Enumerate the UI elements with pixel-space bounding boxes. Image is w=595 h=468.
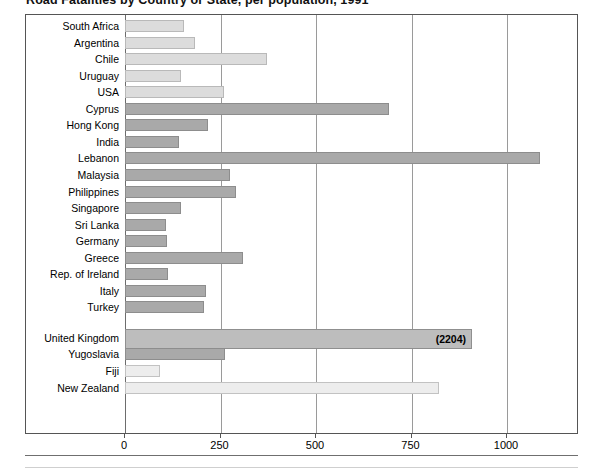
axis-baseline xyxy=(25,455,578,456)
category-label: Malaysia xyxy=(26,168,119,182)
bar-row: South Africa xyxy=(26,18,577,35)
bar xyxy=(125,86,224,98)
tick-mark xyxy=(506,434,507,438)
bar xyxy=(125,202,181,214)
bar xyxy=(125,285,206,297)
category-label: Lebanon xyxy=(26,151,119,165)
plot-area: South AfricaArgentinaChileUruguayUSACypr… xyxy=(25,14,578,434)
bar xyxy=(125,301,204,313)
bar xyxy=(125,348,225,360)
bar xyxy=(125,235,167,247)
bar xyxy=(125,53,267,65)
bar-row: USA xyxy=(26,84,577,101)
category-label: Uruguay xyxy=(26,69,119,83)
category-label: Fiji xyxy=(26,364,119,378)
bar-row: Sri Lanka xyxy=(26,217,577,234)
tick-mark xyxy=(411,434,412,438)
category-label: Hong Kong xyxy=(26,118,119,132)
tick-mark xyxy=(220,434,221,438)
tick-mark xyxy=(315,434,316,438)
bar-value-label: (2204) xyxy=(436,333,466,345)
bar-row: Argentina xyxy=(26,35,577,52)
bar-row: Philippines xyxy=(26,184,577,201)
bar-row: United Kingdom(2204) xyxy=(26,330,577,347)
bar-row: Malaysia xyxy=(26,167,577,184)
bar-row: Rep. of Ireland xyxy=(26,266,577,283)
category-label: Argentina xyxy=(26,36,119,50)
bar xyxy=(125,186,236,198)
category-label: New Zealand xyxy=(26,381,119,395)
bar xyxy=(125,252,243,264)
category-label: Singapore xyxy=(26,201,119,215)
chart-title: Road Fatalities by Country or State, per… xyxy=(26,0,571,7)
bar xyxy=(125,268,168,280)
category-label: Greece xyxy=(26,251,119,265)
bar-row: India xyxy=(26,134,577,151)
category-label: Philippines xyxy=(26,185,119,199)
tick-label: 0 xyxy=(121,439,127,451)
bar xyxy=(125,20,184,32)
category-label: Sri Lanka xyxy=(26,218,119,232)
category-label: Cyprus xyxy=(26,102,119,116)
bar-row: Hong Kong xyxy=(26,117,577,134)
bar-row: Cyprus xyxy=(26,101,577,118)
tick-label: 750 xyxy=(401,439,419,451)
x-axis: 02505007501000 xyxy=(25,434,578,468)
bar-rows: South AfricaArgentinaChileUruguayUSACypr… xyxy=(26,15,577,433)
category-label: USA xyxy=(26,85,119,99)
tick-mark xyxy=(124,434,125,438)
bar xyxy=(125,219,166,231)
bar-row: Singapore xyxy=(26,200,577,217)
tick-label: 1000 xyxy=(494,439,518,451)
bar xyxy=(125,37,195,49)
bar xyxy=(125,169,230,181)
bar xyxy=(125,136,179,148)
bar xyxy=(125,70,181,82)
bar xyxy=(125,119,208,131)
category-label: Yugoslavia xyxy=(26,347,119,361)
category-label: Turkey xyxy=(26,300,119,314)
bar-row: Turkey xyxy=(26,299,577,316)
category-label: Germany xyxy=(26,234,119,248)
category-label: Italy xyxy=(26,284,119,298)
bar-row: Greece xyxy=(26,250,577,267)
bar-row: Uruguay xyxy=(26,68,577,85)
bar-row: New Zealand xyxy=(26,380,577,397)
bar-row: Germany xyxy=(26,233,577,250)
category-label: Chile xyxy=(26,52,119,66)
bar xyxy=(125,152,540,164)
category-label: India xyxy=(26,135,119,149)
bar xyxy=(125,103,389,115)
tick-label: 250 xyxy=(210,439,228,451)
category-label: South Africa xyxy=(26,19,119,33)
bar-row: Chile xyxy=(26,51,577,68)
bar-row: Fiji xyxy=(26,363,577,380)
bar xyxy=(125,382,439,394)
bar-row: Italy xyxy=(26,283,577,300)
category-label: Rep. of Ireland xyxy=(26,267,119,281)
tick-label: 500 xyxy=(306,439,324,451)
bar-row: Yugoslavia xyxy=(26,346,577,363)
bar-row: Lebanon xyxy=(26,150,577,167)
category-label: United Kingdom xyxy=(26,331,119,345)
bar xyxy=(125,365,160,377)
